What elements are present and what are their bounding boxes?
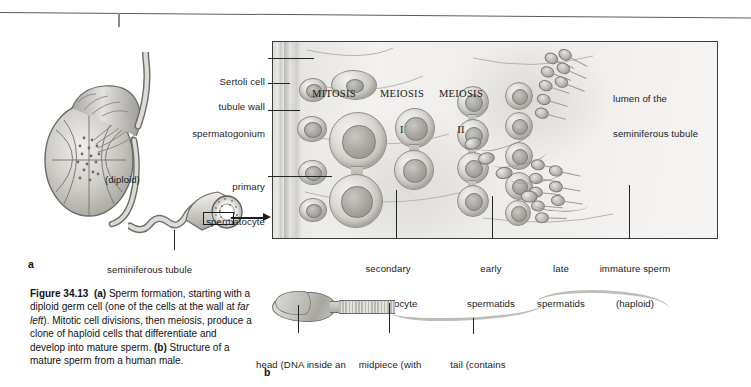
figure-root: MITOSIS MEIOSIS I MEIOSIS II lumen of th…: [0, 0, 751, 387]
label-primary-spermatocyte-line2: spermatocyte: [115, 216, 265, 228]
label-seminiferous-tubule: seminiferous tubule: [96, 252, 192, 287]
leader-seminiferous-tubule: [174, 230, 175, 250]
stage-heading-meiosis-ii-line2: II: [430, 124, 492, 136]
leader-sperm-head: [298, 305, 299, 333]
figure-caption: Figure 34.13 (a) Sperm formation, starti…: [30, 287, 252, 367]
page-rule-tick: [118, 13, 120, 27]
leader-sertoli-cell: [268, 58, 314, 59]
leader-tubule-wall: [268, 83, 290, 84]
stage-heading-meiosis-ii: MEIOSIS II: [430, 64, 492, 160]
figure-number: Figure 34.13: [30, 288, 88, 299]
spermatogonium-cell: [299, 198, 327, 222]
leader-early-spermatids: [492, 196, 493, 238]
label-primary-spermatocyte-line1: primary: [115, 181, 265, 193]
sperm-acrosome-cap: [275, 291, 311, 315]
label-lumen: lumen of the seminiferous tubule: [613, 70, 698, 163]
stage-heading-mitosis: MITOSIS: [300, 64, 368, 148]
meiosis-ii-cell: [457, 185, 489, 217]
label-sperm-midpiece-line1: midpiece (with: [340, 359, 440, 371]
sperm-midpiece-shape: [339, 300, 395, 314]
caption-marker-b: (b): [154, 342, 167, 353]
label-secondary-spermatocyte-line1: secondary: [338, 263, 438, 275]
early-spermatid: [505, 82, 533, 110]
leader-spermatogonium: [268, 110, 300, 111]
sperm-tail-segment-1: [393, 296, 543, 321]
leader-primary-spermatocyte: [268, 176, 332, 177]
label-spermatogonium-line1: spermatogonium: [105, 128, 265, 140]
leader-sperm-midpiece: [389, 303, 390, 333]
leader-sperm-tail: [473, 318, 474, 334]
panel-letter-a: a: [28, 258, 34, 270]
label-primary-spermatocyte: primary spermatocyte: [115, 158, 265, 251]
primary-spermatocyte: [329, 174, 383, 228]
label-seminiferous-tubule-text: seminiferous tubule: [107, 264, 192, 275]
stage-heading-mitosis-line1: MITOSIS: [300, 88, 368, 100]
leader-secondary-spermatocyte: [396, 190, 397, 238]
stage-heading-meiosis-ii-line1: MEIOSIS: [430, 88, 492, 100]
sperm-tail-segment-2: [537, 290, 669, 321]
stage-heading-meiosis-i: MEIOSIS I: [371, 64, 433, 160]
mature-sperm-illustration: [272, 288, 672, 332]
label-sperm-tail: tail (contains microtubules): [432, 336, 524, 387]
caption-marker-a: (a): [94, 288, 106, 299]
page-rule-line: [0, 12, 751, 19]
stage-heading-meiosis-i-line1: MEIOSIS: [371, 88, 433, 100]
stage-heading-meiosis-i-line2: I: [371, 124, 433, 136]
label-lumen-line2: seminiferous tubule: [613, 128, 698, 140]
label-sperm-midpiece: midpiece (with mitochondria): [340, 336, 440, 387]
label-early-spermatids-line1: early: [451, 263, 531, 275]
label-immature-sperm-line1: immature sperm: [583, 263, 687, 275]
early-spermatid: [505, 200, 531, 226]
label-lumen-line1: lumen of the: [613, 93, 698, 105]
label-sperm-tail-line1: tail (contains: [432, 359, 524, 371]
leader-immature-sperm: [629, 185, 630, 238]
spermatogonium-cell: [298, 160, 327, 185]
